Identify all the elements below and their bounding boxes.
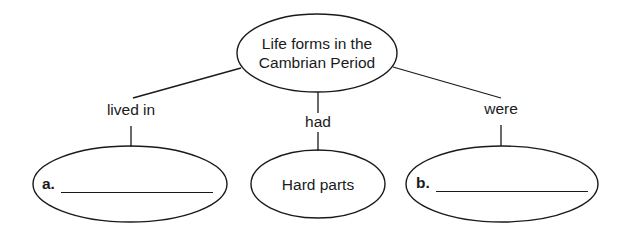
root-node-label-line1: Life forms in the <box>237 34 397 53</box>
link-label-lived-in: lived in <box>96 101 166 119</box>
answer-blank-b[interactable]: b. <box>416 174 588 192</box>
link-label-were: were <box>476 100 526 118</box>
connector-root-to-lived-in <box>133 68 241 98</box>
root-node-label-line2: Cambrian Period <box>237 53 397 72</box>
answer-blank-a[interactable]: a. <box>42 175 213 193</box>
answer-a-input-line[interactable] <box>61 178 213 193</box>
answer-b-prefix: b. <box>416 174 430 192</box>
link-label-had: had <box>298 113 338 131</box>
root-node: Life forms in the Cambrian Period <box>237 34 397 72</box>
child-node-hard-parts: Hard parts <box>251 175 385 194</box>
answer-b-input-line[interactable] <box>436 177 588 192</box>
connector-root-to-were <box>393 67 501 98</box>
answer-a-prefix: a. <box>42 175 55 193</box>
